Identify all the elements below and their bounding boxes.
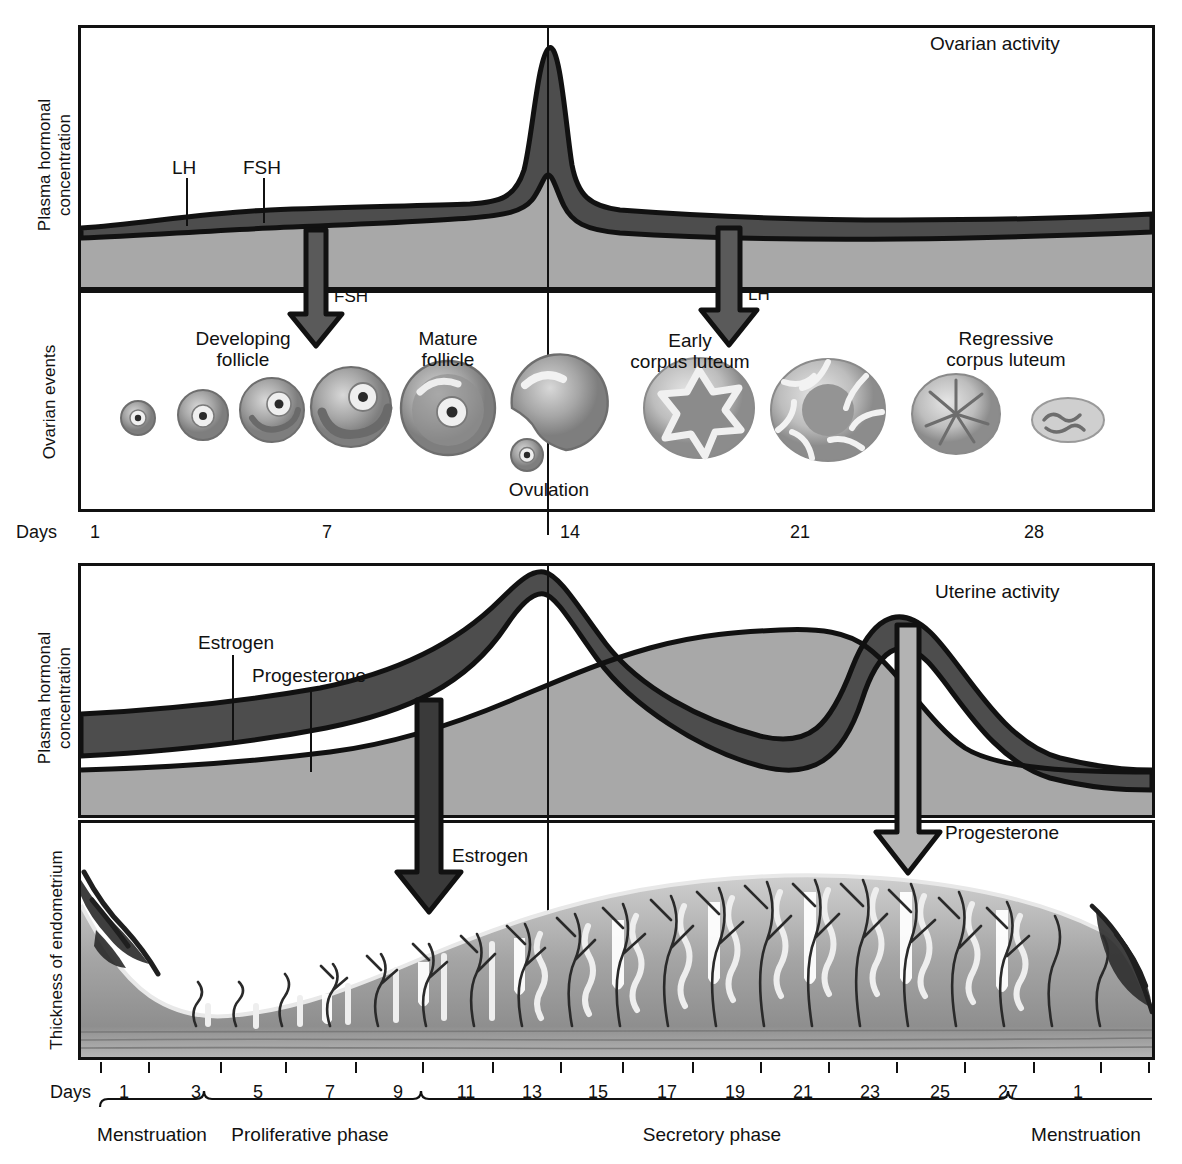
lower-day-tick-15: 15 [588,1082,608,1103]
lower-day-tick-25: 25 [930,1082,950,1103]
phase-label-menstruation-end: Menstruation [1031,1124,1141,1146]
upper-day-tick-14: 14 [560,522,580,543]
lower-tick-mark [1033,1062,1035,1073]
arrow-label-fsh: FSH [334,286,368,307]
lower-day-tick-3: 3 [191,1082,201,1103]
lower-tick-mark [896,1062,898,1073]
phase-label-menstruation-start: Menstruation [97,1124,207,1146]
lower-day-tick-9: 9 [393,1082,403,1103]
label-ovulation: Ovulation [479,479,619,500]
label-early-corpus-luteum-line2: corpus luteum [600,351,780,372]
y-axis-label-line2: concentration [55,65,75,265]
panel-title-uterine-activity: Uterine activity [935,581,1060,603]
lower-day-tick-21: 21 [793,1082,813,1103]
phase-label-proliferative: Proliferative phase [231,1124,388,1146]
y-axis-label-ovarian-hormones: Plasma hormonal concentration [35,65,75,265]
y-axis-label-ovarian-events: Ovarian events [40,312,60,492]
menstrual-cycle-figure: Plasma hormonal concentration Ovarian ac… [0,0,1182,1164]
label-developing-follicle-line1: Developing [168,328,318,349]
curve-label-estrogen: Estrogen [198,632,274,653]
label-early-corpus-luteum: Early corpus luteum [600,330,780,372]
lower-tick-mark [964,1062,966,1073]
lower-day-tick-5: 5 [253,1082,263,1103]
curve-label-fsh: FSH [243,157,281,178]
label-regressive-corpus-luteum-line2: corpus luteum [906,349,1106,370]
lower-day-tick-23: 23 [860,1082,880,1103]
lower-tick-mark [148,1062,150,1073]
arrow-label-progesterone: Progesterone [945,822,1059,843]
lower-tick-mark [492,1062,494,1073]
label-early-corpus-luteum-line1: Early [600,330,780,351]
panel-ovarian-hormones [78,25,1155,290]
lower-tick-mark [1100,1062,1102,1073]
upper-day-tick-21: 21 [790,522,810,543]
lower-tick-mark [285,1062,287,1073]
lower-tick-mark [560,1062,562,1073]
lower-day-tick-1: 1 [119,1082,129,1103]
ovulation-reference-line-lower [547,563,549,1060]
panel-title-ovarian-activity: Ovarian activity [930,33,1060,55]
lower-day-tick-27: 27 [998,1082,1018,1103]
lower-day-tick-13: 13 [522,1082,542,1103]
lower-tick-mark [692,1062,694,1073]
lower-days-axis-word: Days [50,1082,91,1103]
lower-tick-mark [220,1062,222,1073]
y-axis-label-line1: Plasma hormonal [35,65,55,265]
lower-tick-mark [422,1062,424,1073]
label-mature-follicle-line1: Mature [383,328,513,349]
leader-line-fsh [263,178,265,223]
lower-tick-mark [622,1062,624,1073]
phase-label-secretory: Secretory phase [643,1124,781,1146]
ovulation-reference-line-upper [547,25,549,535]
lower-day-tick-29: 1 [1073,1082,1083,1103]
arrow-label-estrogen: Estrogen [452,845,528,866]
upper-days-axis-word: Days [16,522,57,543]
upper-day-tick-28: 28 [1024,522,1044,543]
label-mature-follicle: Mature follicle [383,328,513,370]
lower-tick-mark [1148,1062,1150,1073]
leader-line-lh [186,178,188,226]
lower-tick-mark [355,1062,357,1073]
y-axis-label-uterine-line2: concentration [55,598,75,798]
lower-day-tick-19: 19 [725,1082,745,1103]
lower-day-tick-17: 17 [657,1082,677,1103]
label-regressive-corpus-luteum-line1: Regressive [906,328,1106,349]
upper-day-tick-1: 1 [90,522,100,543]
curve-label-lh: LH [172,157,196,178]
label-regressive-corpus-luteum: Regressive corpus luteum [906,328,1106,370]
upper-day-tick-7: 7 [322,522,332,543]
leader-line-progesterone [310,688,312,772]
leader-line-estrogen [232,655,234,743]
label-developing-follicle-line2: follicle [168,349,318,370]
arrow-label-lh: LH [748,284,770,305]
lower-day-tick-11: 11 [457,1082,476,1103]
lower-tick-mark [760,1062,762,1073]
y-axis-label-uterine-hormones: Plasma hormonal concentration [35,598,75,798]
lower-day-tick-7: 7 [325,1082,335,1103]
panel-endometrium [78,820,1155,1060]
lower-tick-mark [828,1062,830,1073]
curve-label-progesterone: Progesterone [252,665,366,686]
label-developing-follicle: Developing follicle [168,328,318,370]
y-axis-label-uterine-line1: Plasma hormonal [35,598,55,798]
lower-tick-mark [100,1062,102,1073]
y-axis-label-endometrium: Thickness of endometrium [47,800,67,1100]
label-mature-follicle-line2: follicle [383,349,513,370]
